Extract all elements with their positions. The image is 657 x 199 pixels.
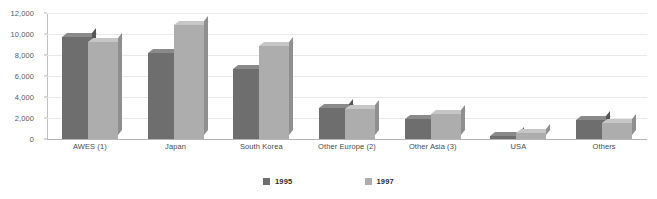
bar-column[interactable]	[259, 46, 289, 139]
y-tick-label: 12,000	[0, 9, 34, 18]
bar-column[interactable]	[345, 109, 375, 139]
bar-side-face	[461, 105, 465, 135]
bar[interactable]	[431, 114, 461, 139]
bar[interactable]	[345, 109, 375, 139]
legend-label: 1995	[275, 177, 293, 186]
x-tick-label: Other Europe (2)	[304, 142, 390, 158]
bar-column[interactable]	[88, 42, 118, 139]
y-tick-label: 2,000	[0, 114, 34, 123]
bar[interactable]	[516, 133, 546, 139]
bar-group-bars	[561, 13, 647, 139]
bar[interactable]	[88, 42, 118, 139]
legend-swatch-icon	[365, 178, 372, 185]
y-tick-label: 4,000	[0, 93, 34, 102]
bar-column[interactable]	[602, 123, 632, 139]
y-tick-label: 0	[0, 135, 34, 144]
bar-face	[602, 123, 632, 139]
bar-groups	[47, 13, 647, 139]
x-tick-label: AWES (1)	[47, 142, 133, 158]
x-tick-label: Japan	[133, 142, 219, 158]
bar-group-bars	[476, 13, 562, 139]
axis-baseline	[47, 139, 647, 140]
bar-group-bars	[133, 13, 219, 139]
bar-group	[133, 13, 219, 139]
bar-face	[431, 114, 461, 139]
legend-item[interactable]: 1997	[365, 177, 395, 186]
y-tick-label: 10,000	[0, 30, 34, 39]
bar-face	[88, 42, 118, 139]
x-tick-label: USA	[476, 142, 562, 158]
x-tick-label: South Korea	[218, 142, 304, 158]
bar-group	[218, 13, 304, 139]
bar-side-face	[289, 36, 293, 135]
bar-column[interactable]	[431, 114, 461, 139]
bar-face	[345, 109, 375, 139]
bar-group-bars	[218, 13, 304, 139]
bar-side-face	[632, 114, 636, 135]
bar-side-face	[375, 99, 379, 135]
bar[interactable]	[602, 123, 632, 139]
bar[interactable]	[174, 25, 204, 139]
bar-group	[304, 13, 390, 139]
bar-column[interactable]	[174, 25, 204, 139]
bar-group	[47, 13, 133, 139]
x-tick-label: Others	[561, 142, 647, 158]
bar-face	[174, 25, 204, 139]
bar-side-face	[118, 33, 122, 135]
x-axis-labels: AWES (1)JapanSouth KoreaOther Europe (2)…	[47, 142, 647, 158]
chart-legend: 19951997	[0, 177, 657, 186]
bar-face	[259, 46, 289, 139]
x-tick-label: Other Asia (3)	[390, 142, 476, 158]
bar-group-bars	[304, 13, 390, 139]
plot-area: 02,0004,0006,0008,00010,00012,000	[47, 13, 647, 139]
bar-side-face	[546, 124, 550, 135]
y-tick-label: 6,000	[0, 72, 34, 81]
bar-face	[516, 133, 546, 139]
bar-group-bars	[47, 13, 133, 139]
legend-label: 1997	[377, 177, 395, 186]
bar-chart: 02,0004,0006,0008,00010,00012,000 AWES (…	[0, 0, 657, 199]
bar-column[interactable]	[516, 133, 546, 139]
bar-side-face	[204, 15, 208, 135]
bar[interactable]	[259, 46, 289, 139]
y-tick-label: 8,000	[0, 51, 34, 60]
bar-group-bars	[390, 13, 476, 139]
bar-group	[390, 13, 476, 139]
bar-group	[561, 13, 647, 139]
legend-item[interactable]: 1995	[263, 177, 293, 186]
legend-swatch-icon	[263, 178, 270, 185]
bar-group	[476, 13, 562, 139]
